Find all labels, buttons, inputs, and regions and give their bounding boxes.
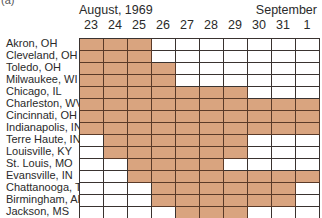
table-row xyxy=(80,75,320,87)
shaded-cell xyxy=(176,195,200,207)
shaded-cell xyxy=(200,147,224,159)
empty-cell xyxy=(272,135,296,147)
shaded-cell xyxy=(80,75,104,87)
shaded-cell xyxy=(200,159,224,171)
shaded-cell xyxy=(296,171,320,183)
shaded-cell xyxy=(176,207,200,218)
empty-cell xyxy=(200,51,224,63)
shaded-cell xyxy=(128,111,152,123)
shaded-cell xyxy=(176,123,200,135)
shaded-cell xyxy=(128,75,152,87)
empty-cell xyxy=(152,39,176,51)
shaded-cell xyxy=(152,111,176,123)
shaded-cell xyxy=(80,51,104,63)
empty-cell xyxy=(224,159,248,171)
table-row xyxy=(80,63,320,75)
shaded-cell xyxy=(224,99,248,111)
empty-cell xyxy=(296,39,320,51)
empty-cell xyxy=(296,75,320,87)
shaded-cell xyxy=(128,147,152,159)
shaded-cell xyxy=(104,147,128,159)
shaded-cell xyxy=(128,171,152,183)
shaded-cell xyxy=(296,123,320,135)
shaded-cell xyxy=(176,99,200,111)
shaded-cell xyxy=(104,75,128,87)
shaded-cell xyxy=(104,135,128,147)
empty-cell xyxy=(272,207,296,218)
shaded-cell xyxy=(176,183,200,195)
shaded-cell xyxy=(80,39,104,51)
shaded-cell xyxy=(104,123,128,135)
day-label: 29 xyxy=(223,18,247,32)
empty-cell xyxy=(80,171,104,183)
city-label: Cleveland, OH xyxy=(6,49,90,61)
table-row xyxy=(80,111,320,123)
shaded-cell xyxy=(224,111,248,123)
empty-cell xyxy=(200,63,224,75)
shaded-cell xyxy=(80,87,104,99)
empty-cell xyxy=(224,63,248,75)
empty-cell xyxy=(152,51,176,63)
city-label: Cincinnati, OH xyxy=(6,109,90,121)
empty-cell xyxy=(296,87,320,99)
shaded-cell xyxy=(152,171,176,183)
empty-cell xyxy=(296,183,320,195)
empty-cell xyxy=(296,135,320,147)
table-row xyxy=(80,123,320,135)
shaded-cell xyxy=(200,195,224,207)
shaded-cell xyxy=(272,195,296,207)
shaded-cell xyxy=(224,183,248,195)
city-label: Milwaukee, WI xyxy=(6,73,90,85)
shaded-cell xyxy=(272,99,296,111)
empty-cell xyxy=(152,207,176,218)
empty-cell xyxy=(272,63,296,75)
table-row xyxy=(80,183,320,195)
empty-cell xyxy=(272,75,296,87)
empty-cell xyxy=(200,39,224,51)
shaded-cell xyxy=(248,123,272,135)
shaded-cell xyxy=(248,99,272,111)
day-label: 28 xyxy=(199,18,223,32)
city-label: Evansville, IN xyxy=(6,169,90,181)
empty-cell xyxy=(248,75,272,87)
shaded-cell xyxy=(248,171,272,183)
table-row xyxy=(80,135,320,147)
shaded-cell xyxy=(272,171,296,183)
empty-cell xyxy=(272,159,296,171)
shaded-cell xyxy=(80,63,104,75)
shaded-cell xyxy=(152,159,176,171)
shaded-cell xyxy=(296,111,320,123)
month-label-august: August, 1969 xyxy=(79,3,153,17)
empty-cell xyxy=(80,207,104,218)
shaded-cell xyxy=(176,147,200,159)
shaded-cell xyxy=(152,195,176,207)
empty-cell xyxy=(272,87,296,99)
empty-cell xyxy=(176,63,200,75)
empty-cell xyxy=(80,183,104,195)
shaded-cell xyxy=(128,39,152,51)
shaded-cell xyxy=(200,87,224,99)
empty-cell xyxy=(296,51,320,63)
shaded-cell xyxy=(80,99,104,111)
table-row xyxy=(80,159,320,171)
empty-cell xyxy=(248,159,272,171)
day-label: 24 xyxy=(103,18,127,32)
shaded-cell xyxy=(200,207,224,218)
city-label: Jackson, MS xyxy=(6,205,90,217)
city-label: Chattanooga, TN xyxy=(6,181,90,193)
shaded-cell xyxy=(200,111,224,123)
empty-cell xyxy=(272,51,296,63)
shaded-cell xyxy=(272,123,296,135)
shaded-cell xyxy=(296,99,320,111)
city-label: Terre Haute, IN xyxy=(6,133,90,145)
empty-cell xyxy=(248,51,272,63)
shaded-cell xyxy=(128,99,152,111)
shaded-cell xyxy=(224,171,248,183)
empty-cell xyxy=(80,135,104,147)
shaded-cell xyxy=(104,51,128,63)
day-label: 23 xyxy=(79,18,103,32)
table-row xyxy=(80,99,320,111)
month-label-september: September xyxy=(256,3,317,17)
shaded-cell xyxy=(152,87,176,99)
empty-cell xyxy=(296,63,320,75)
